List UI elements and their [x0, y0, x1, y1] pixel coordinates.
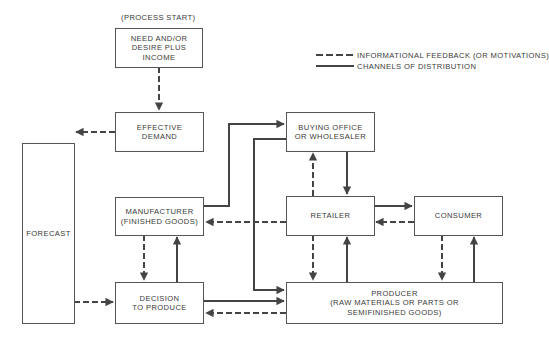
- node-manufacturer: MANUFACTURER (FINISHED GOODS): [115, 197, 204, 236]
- node-buying-office: BUYING OFFICE OR WHOLESALER: [286, 112, 375, 152]
- node-producer: PRODUCER (RAW MATERIALS OR PARTS OR SEMI…: [286, 282, 503, 324]
- process-start-label: (PROCESS START): [121, 13, 196, 22]
- node-consumer: CONSUMER: [414, 196, 503, 236]
- legend-solid-label: CHANNELS OF DISTRIBUTION: [357, 62, 476, 71]
- node-effective-demand: EFFECTIVE DEMAND: [115, 112, 204, 152]
- node-forecast: FORECAST: [22, 143, 75, 324]
- node-retailer: RETAILER: [286, 196, 375, 236]
- legend-dashed-label: INFORMATIONAL FEEDBACK (OR MOTIVATIONS): [357, 51, 549, 60]
- node-decision-to-produce: DECISION TO PRODUCE: [115, 282, 204, 324]
- node-need: NEED AND/OR DESIRE PLUS INCOME: [115, 28, 203, 68]
